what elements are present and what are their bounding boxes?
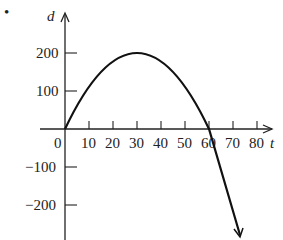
svg-text:40: 40 (153, 135, 168, 151)
x-tick-labels: 0 10 20 30 40 50 60 70 80 (54, 135, 264, 151)
svg-text:200: 200 (36, 45, 59, 61)
y-axis-label: d (47, 8, 55, 24)
svg-text:−100: −100 (25, 159, 56, 175)
x-ticks (89, 121, 257, 129)
svg-text:20: 20 (105, 135, 120, 151)
svg-text:70: 70 (225, 135, 240, 151)
svg-text:0: 0 (54, 135, 62, 151)
bullet-marker: • (4, 4, 9, 20)
svg-text:−200: −200 (25, 197, 56, 213)
svg-text:100: 100 (36, 83, 59, 99)
svg-text:10: 10 (81, 135, 96, 151)
svg-text:80: 80 (249, 135, 264, 151)
svg-text:30: 30 (129, 135, 144, 151)
svg-text:50: 50 (177, 135, 192, 151)
x-axis-label: t (270, 135, 275, 151)
chart: • d t 0 10 20 30 40 50 60 70 80 200 100 (0, 0, 283, 240)
